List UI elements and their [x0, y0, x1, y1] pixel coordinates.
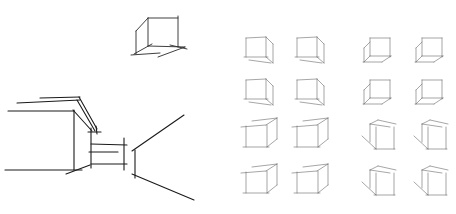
pencil-stroke	[246, 37, 266, 38]
single-cube-sketch	[131, 16, 187, 57]
pencil-stroke	[318, 185, 328, 193]
pencil-stroke	[297, 37, 317, 38]
pencil-stroke	[297, 79, 317, 80]
pencil-stroke	[317, 37, 324, 44]
pencil-stroke	[241, 125, 266, 127]
pencil-stroke	[266, 57, 273, 63]
cube-drawing	[295, 79, 324, 105]
pencil-stroke	[249, 102, 271, 105]
step	[88, 128, 127, 170]
pencil-stroke	[292, 125, 317, 127]
pencil-stroke	[266, 99, 273, 105]
pencil-stroke	[292, 171, 317, 173]
pencil-stroke	[416, 56, 422, 62]
pencil-stroke	[364, 98, 370, 104]
cube-drawing	[241, 118, 277, 147]
pencil-stroke	[430, 120, 448, 124]
cube-grid	[241, 37, 448, 195]
pencil-stroke	[317, 79, 324, 86]
pencil-stroke	[266, 37, 273, 44]
pencil-stroke	[267, 185, 277, 193]
pencil-stroke	[414, 136, 428, 149]
pencil-stroke	[362, 182, 376, 195]
cube-drawing	[292, 164, 328, 193]
pencil-stroke	[364, 56, 370, 62]
pencil-stroke	[370, 120, 378, 124]
pencil-stroke	[364, 84, 370, 90]
pencil-stroke	[267, 139, 277, 147]
pencil-stroke	[370, 170, 390, 173]
cube-drawing	[363, 38, 391, 62]
cube-drawing	[244, 79, 273, 105]
cube-drawing	[292, 118, 328, 147]
cube-drawing	[362, 120, 396, 149]
pencil-stroke	[382, 98, 391, 104]
overhang-slab	[8, 97, 97, 134]
pencil-stroke	[430, 166, 448, 170]
pencil-stroke	[317, 99, 324, 105]
pencil-stroke	[318, 139, 328, 147]
pencil-stroke	[370, 124, 390, 127]
cube-drawing	[295, 37, 324, 63]
pencil-stroke	[416, 98, 422, 104]
pencil-stroke	[241, 171, 266, 173]
pencil-stroke	[300, 102, 322, 105]
cube-drawing	[415, 38, 443, 62]
pencil-stroke	[416, 84, 422, 90]
cube-drawing	[414, 166, 448, 195]
pencil-stroke	[422, 124, 442, 127]
pencil-stroke	[378, 166, 396, 170]
wall-block	[5, 110, 90, 174]
corridor-walls	[132, 115, 194, 200]
pencil-stroke	[416, 42, 422, 48]
cube-drawing	[362, 166, 396, 195]
pencil-stroke	[434, 56, 443, 62]
pencil-stroke	[378, 120, 396, 124]
pencil-stroke	[317, 57, 324, 63]
perspective-scene-sketch	[5, 97, 194, 200]
pencil-stroke	[370, 166, 378, 170]
pencil-stroke	[434, 98, 443, 104]
pencil-stroke	[414, 182, 428, 195]
pencil-stroke	[362, 136, 376, 149]
pencil-stroke	[422, 166, 430, 170]
pencil-stroke	[382, 56, 391, 62]
sketch-sheet	[0, 0, 456, 214]
cube-drawing	[414, 120, 448, 149]
pencil-stroke	[249, 60, 271, 63]
pencil-stroke	[266, 79, 273, 86]
pencil-stroke	[246, 79, 266, 80]
cube-drawing	[241, 164, 277, 193]
pencil-stroke	[422, 120, 430, 124]
cube-drawing	[244, 37, 273, 63]
pencil-stroke	[364, 42, 370, 48]
pencil-stroke	[422, 170, 442, 173]
cube-drawing	[415, 80, 443, 104]
pencil-stroke	[300, 60, 322, 63]
cube-drawing	[363, 80, 391, 104]
